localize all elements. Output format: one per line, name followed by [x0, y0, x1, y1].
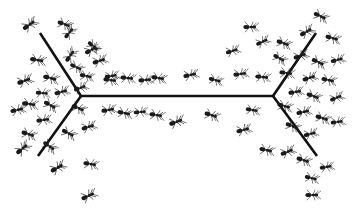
ant — [41, 138, 59, 155]
ant — [305, 89, 323, 104]
ant — [319, 161, 335, 173]
ant — [83, 158, 100, 170]
ant — [208, 74, 225, 87]
ant-abdomen — [204, 111, 211, 117]
ant — [312, 9, 330, 24]
ant-swarm — [0, 0, 354, 218]
ant — [276, 100, 293, 114]
ant-abdomen — [280, 150, 287, 156]
ant — [328, 91, 345, 105]
ant-abdomen — [71, 104, 78, 110]
ant — [149, 109, 166, 121]
ant-abdomen — [10, 108, 17, 113]
ant-abdomen — [255, 41, 262, 47]
ant-thorax — [312, 194, 316, 197]
ant-abdomen — [277, 102, 284, 108]
ant — [295, 153, 313, 167]
ant — [72, 81, 89, 95]
ant-abdomen — [21, 130, 28, 136]
ant-head — [315, 194, 318, 197]
ant — [305, 190, 320, 200]
ant — [245, 104, 261, 116]
ant-abdomen — [303, 132, 309, 137]
ant-head — [253, 26, 256, 29]
ant-abdomen — [61, 128, 68, 134]
ant — [243, 22, 258, 32]
ant-abdomen — [17, 79, 24, 85]
ant — [120, 72, 136, 83]
ant — [330, 53, 347, 66]
ant — [53, 85, 70, 99]
ant — [320, 74, 337, 87]
ant — [314, 111, 332, 125]
ant-abdomen — [208, 76, 214, 81]
ant — [254, 34, 271, 49]
ant-abdomen — [43, 74, 50, 80]
ant — [62, 46, 79, 64]
ant-abdomen — [117, 110, 124, 115]
ant — [133, 106, 148, 117]
ant — [42, 71, 60, 85]
ant-leg — [313, 196, 315, 200]
ant-abdomen — [225, 49, 232, 54]
ant-abdomen — [149, 112, 156, 117]
ant — [70, 101, 88, 116]
ant-abdomen — [313, 11, 320, 17]
ant-abdomen — [169, 120, 176, 126]
ant — [36, 114, 53, 126]
ant — [20, 127, 38, 141]
ant-abdomen — [288, 90, 295, 95]
ant-abdomen — [285, 122, 292, 128]
ant — [301, 71, 319, 85]
ant-abdomen — [101, 108, 108, 113]
ant — [284, 119, 302, 134]
ant — [235, 123, 252, 137]
ant — [138, 74, 154, 85]
ant — [35, 88, 50, 99]
ant-abdomen — [306, 92, 313, 98]
ant-abdomen — [276, 39, 283, 45]
ant-trail-figure — [0, 0, 354, 218]
ant-abdomen — [243, 25, 249, 29]
ant-abdomen — [84, 49, 91, 56]
ant — [271, 51, 288, 66]
ant-abdomen — [73, 86, 80, 92]
ant — [292, 48, 310, 63]
ant-abdomen — [83, 161, 90, 166]
ant-abdomen — [151, 75, 158, 80]
ant-abdomen — [321, 77, 328, 82]
ant-abdomen — [311, 57, 318, 63]
ant — [310, 55, 328, 70]
ant — [42, 97, 60, 113]
ant-abdomen — [296, 156, 303, 162]
ant-abdomen — [81, 194, 88, 201]
ant-thorax — [250, 26, 254, 29]
ant — [255, 71, 271, 82]
ant-abdomen — [245, 107, 251, 112]
ant — [101, 104, 118, 116]
ant-abdomen — [79, 73, 85, 78]
ant — [60, 126, 78, 142]
ant-leg — [251, 22, 253, 26]
ant — [324, 32, 341, 46]
ant-abdomen — [329, 96, 336, 102]
ant-leg — [251, 28, 253, 32]
ant-abdomen — [305, 193, 311, 197]
ant — [91, 54, 109, 68]
ant-abdomen — [315, 114, 322, 120]
ant-abdomen — [81, 125, 88, 131]
ant-abdomen — [319, 165, 325, 170]
ant-abdomen — [69, 63, 76, 69]
ant — [80, 120, 98, 134]
ant-abdomen — [50, 166, 58, 173]
ant-abdomen — [304, 175, 310, 180]
ant — [79, 187, 98, 203]
ant-abdomen — [259, 147, 266, 152]
ant — [258, 144, 275, 157]
ant-abdomen — [236, 128, 243, 134]
ant-abdomen — [296, 110, 303, 115]
ant-abdomen — [54, 90, 61, 96]
ant — [233, 68, 250, 80]
ant-leg — [313, 190, 315, 194]
ant — [288, 86, 305, 98]
